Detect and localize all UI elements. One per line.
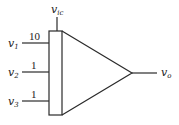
input-2-weight: 1 — [31, 59, 37, 71]
integrator-diagram: vic vo v1 10 v2 1 v3 1 — [0, 0, 179, 125]
input-3-weight: 1 — [31, 88, 37, 100]
output-label: vo — [161, 66, 171, 80]
ic-label: vic — [51, 3, 63, 17]
input-block — [49, 31, 62, 115]
input-1-weight: 10 — [29, 30, 41, 42]
input-1-label: v1 — [8, 37, 19, 51]
input-2-label: v2 — [8, 66, 19, 80]
amplifier-triangle — [62, 31, 132, 115]
input-3-label: v3 — [8, 95, 19, 109]
